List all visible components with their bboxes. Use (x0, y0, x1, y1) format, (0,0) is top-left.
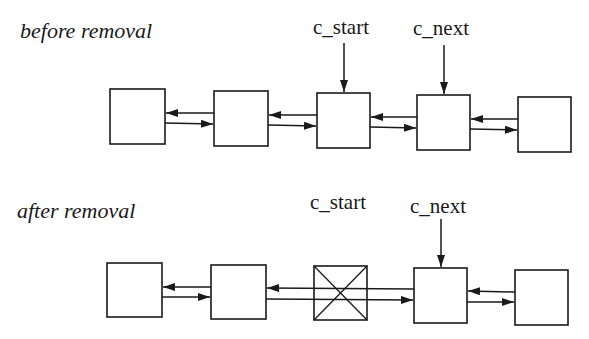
after-node-4 (515, 270, 568, 325)
before-node-4 (518, 97, 571, 152)
after-node-3 (414, 268, 467, 323)
after-prev-arrow-4-3 (468, 291, 515, 292)
before-next-arrow-1-2 (268, 125, 316, 126)
after-prev-arrow-3-1-bypass (267, 288, 414, 289)
after-next-arrow-1-3-bypass (266, 299, 413, 300)
before-node-0 (110, 89, 165, 144)
before-row (110, 89, 571, 152)
linked-list-removal-diagram: before removal c_start c_next after remo… (0, 0, 589, 339)
before-next-arrow-2-3 (370, 127, 416, 128)
after-node-0 (107, 263, 162, 317)
before-node-2 (317, 93, 370, 148)
before-node-3 (417, 95, 470, 150)
before-node-1 (214, 91, 268, 146)
before-next-arrow-0-1 (165, 123, 213, 124)
after-row (107, 263, 568, 325)
before-next-arrow-3-4 (470, 129, 517, 130)
after-node-1 (211, 265, 266, 319)
